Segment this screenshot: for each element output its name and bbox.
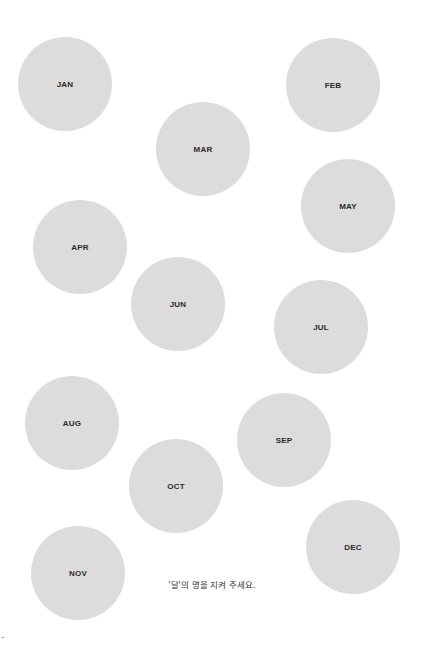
month-circle-may[interactable]: MAY	[301, 159, 395, 253]
month-label: APR	[71, 243, 89, 252]
month-label: FEB	[325, 81, 342, 90]
month-circle-nov[interactable]: NOV	[31, 526, 125, 620]
month-label: MAR	[194, 145, 213, 154]
month-label: JUL	[313, 323, 329, 332]
scan-speck	[2, 637, 4, 638]
month-label: OCT	[167, 482, 185, 491]
month-circle-oct[interactable]: OCT	[129, 439, 223, 533]
month-circle-jul[interactable]: JUL	[274, 280, 368, 374]
month-circle-jun[interactable]: JUN	[131, 257, 225, 351]
month-label: DEC	[344, 543, 362, 552]
month-circle-dec[interactable]: DEC	[306, 500, 400, 594]
month-label: JAN	[57, 80, 74, 89]
month-label: NOV	[69, 569, 87, 578]
month-circle-jan[interactable]: JAN	[18, 37, 112, 131]
month-circle-sep[interactable]: SEP	[237, 393, 331, 487]
month-label: SEP	[276, 436, 293, 445]
month-label: MAY	[339, 202, 357, 211]
month-label: JUN	[170, 300, 187, 309]
month-circle-feb[interactable]: FEB	[286, 38, 380, 132]
month-circle-aug[interactable]: AUG	[25, 376, 119, 470]
caption-text: '달'의 명을 지켜 주세요.	[150, 578, 274, 590]
month-circle-apr[interactable]: APR	[33, 200, 127, 294]
month-circle-mar[interactable]: MAR	[156, 102, 250, 196]
month-label: AUG	[63, 419, 81, 428]
